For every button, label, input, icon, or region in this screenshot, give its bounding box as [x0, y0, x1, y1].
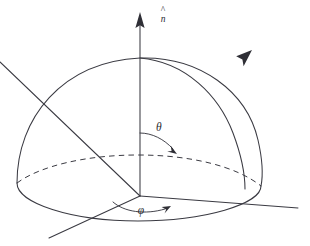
radial-vector-shaft [0, 62, 140, 196]
x-axis-line [140, 196, 298, 208]
spherical-coordinate-diagram: θ φ ^ n [0, 0, 310, 246]
theta-arc-arrowhead-icon [167, 146, 177, 154]
radial-vector-arrowhead-icon [236, 50, 252, 66]
phi-label: φ [138, 204, 145, 217]
equator-back-dashed [17, 155, 261, 186]
figure-canvas: θ φ ^ n [0, 0, 310, 246]
theta-angle-arc [140, 133, 173, 149]
y-axis-line [49, 196, 140, 238]
normal-vector-label: n [161, 14, 166, 24]
theta-label: θ [156, 121, 162, 133]
